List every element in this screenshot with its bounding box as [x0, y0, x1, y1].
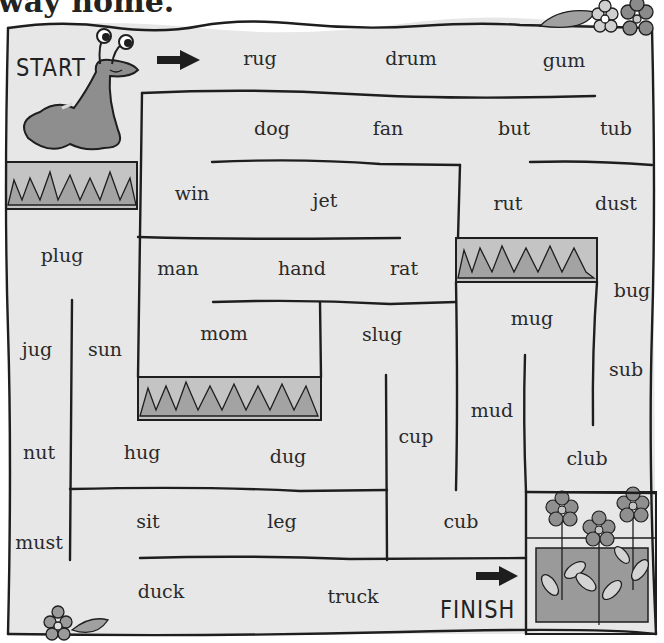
- maze-word-hug[interactable]: hug: [124, 441, 161, 463]
- maze-word-tub[interactable]: tub: [600, 117, 632, 139]
- maze-word-hand[interactable]: hand: [278, 257, 326, 279]
- maze-word-sun[interactable]: sun: [88, 338, 122, 360]
- maze-word-jet[interactable]: jet: [313, 189, 338, 211]
- maze-word-cup[interactable]: cup: [398, 425, 433, 447]
- maze-word-rug[interactable]: rug: [243, 47, 276, 69]
- maze-word-dug[interactable]: dug: [270, 445, 307, 467]
- maze-board: [0, 0, 664, 643]
- maze-word-duck[interactable]: duck: [138, 580, 185, 602]
- maze-word-man[interactable]: man: [157, 257, 199, 279]
- maze-word-nut[interactable]: nut: [23, 441, 55, 463]
- maze-word-must[interactable]: must: [15, 531, 63, 553]
- maze-word-drum[interactable]: drum: [385, 47, 437, 69]
- maze-word-rat[interactable]: rat: [390, 257, 418, 279]
- start-label: START: [16, 54, 86, 83]
- maze-word-slug[interactable]: slug: [362, 323, 402, 345]
- maze-word-mom[interactable]: mom: [200, 322, 247, 344]
- maze-word-bug[interactable]: bug: [614, 279, 651, 301]
- maze-word-leg[interactable]: leg: [267, 510, 296, 532]
- maze-word-cub[interactable]: cub: [443, 510, 478, 532]
- grass-patch-middle: [138, 377, 321, 420]
- maze-word-dog[interactable]: dog: [254, 117, 290, 139]
- maze-word-truck[interactable]: truck: [327, 585, 378, 607]
- maze-word-fan[interactable]: fan: [373, 117, 404, 139]
- maze-word-gum[interactable]: gum: [543, 49, 585, 71]
- maze-word-win[interactable]: win: [175, 182, 210, 204]
- maze-word-rut[interactable]: rut: [494, 192, 523, 214]
- finish-label: FINISH: [440, 596, 515, 625]
- maze-word-dust[interactable]: dust: [595, 192, 637, 214]
- maze-word-club[interactable]: club: [566, 447, 607, 469]
- maze-word-plug[interactable]: plug: [41, 244, 84, 266]
- maze-word-but[interactable]: but: [498, 117, 530, 139]
- maze-word-sub[interactable]: sub: [609, 358, 643, 380]
- maze-word-jug[interactable]: jug: [22, 338, 52, 360]
- finish-garden: [526, 487, 656, 634]
- grass-patch-left: [6, 162, 137, 209]
- maze-word-mud[interactable]: mud: [471, 399, 513, 421]
- grass-patch-right: [456, 238, 597, 282]
- maze-word-sit[interactable]: sit: [136, 510, 159, 532]
- maze-word-mug[interactable]: mug: [511, 307, 553, 329]
